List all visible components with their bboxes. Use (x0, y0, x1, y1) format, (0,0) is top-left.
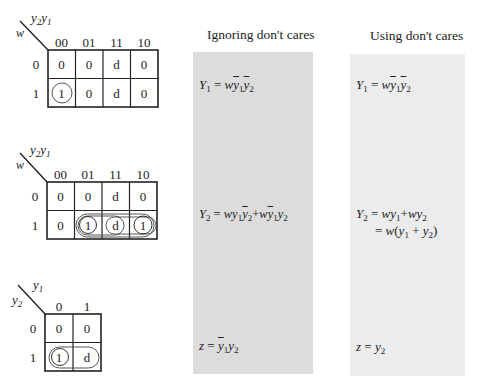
kmap-cell: 0 (130, 58, 158, 71)
kmap-cell: 0 (73, 322, 101, 335)
col-var-label: y2y1 (31, 11, 52, 24)
col-label: 00 (47, 168, 74, 181)
kmap-cell: 1 (48, 87, 75, 100)
kmap-z: y1 y2 0 1 0 1 0 0 1 d (0, 280, 120, 391)
kmap-cell: 0 (45, 322, 73, 335)
col-label: 01 (75, 36, 103, 49)
equation-z-using: z = y2 (356, 340, 385, 354)
kmap-cell: 0 (74, 190, 102, 203)
kmap-cell: 0 (47, 190, 74, 203)
col-label: 11 (102, 168, 129, 181)
col-label: 1 (73, 300, 101, 313)
panel-ignoring: Y1 = wy1y2 Y2 = wy1y2+wy1y2 z = y1y2 (193, 52, 313, 374)
equation-y2-using-line1: Y2 = wy1+wy2 (356, 207, 427, 221)
row-label: 1 (30, 87, 42, 100)
kmap-y2: y2y1 w 00 01 11 10 0 1 0 0 d 0 0 1 d 1 (0, 140, 160, 270)
row-label: 1 (27, 351, 39, 364)
kmap-cell: 0 (129, 190, 157, 203)
kmap-cell: d (102, 190, 129, 203)
equation-y2-ignoring: Y2 = wy1y2+wy1y2 (199, 207, 288, 221)
row-var-label: w (16, 159, 24, 172)
kmap-cell: d (103, 87, 130, 100)
kmap-cell: 1 (45, 351, 73, 364)
row-var-label: y2 (12, 293, 22, 306)
col-label: 00 (48, 36, 75, 49)
row-var-label: w (16, 27, 24, 40)
kmap-cell: 0 (75, 58, 103, 71)
kmap-cell: 1 (129, 219, 157, 232)
equation-y1-ignoring: Y1 = wy1y2 (199, 78, 254, 92)
kmap-y1: y2y1 w 00 01 11 10 0 1 0 0 d 0 1 0 d 0 (0, 0, 160, 130)
col-label: 01 (74, 168, 102, 181)
kmap-cell: d (103, 58, 130, 71)
panel-using: Y1 = wy1y2 Y2 = wy1+wy2 = w(y1 + y2) z =… (350, 54, 465, 376)
col-label: 10 (129, 168, 157, 181)
row-label: 0 (27, 322, 39, 335)
kmap-cell: 0 (75, 87, 103, 100)
col-label: 0 (45, 300, 73, 313)
col-var-label: y2y1 (30, 143, 51, 156)
col-label: 10 (130, 36, 158, 49)
col-var-label: y1 (33, 278, 43, 291)
equation-y1-using: Y1 = wy1y2 (356, 78, 411, 92)
kmap-cell: 1 (74, 219, 102, 232)
kmap-cell: 0 (48, 58, 75, 71)
kmap-cell: d (102, 219, 129, 232)
kmap-cell: 0 (130, 87, 158, 100)
header-ignoring: Ignoring don't cares (207, 27, 314, 43)
row-label: 0 (29, 190, 41, 203)
row-label: 1 (29, 219, 41, 232)
equation-y2-using-line2: = w(y1 + y2) (375, 224, 437, 238)
header-using: Using don't cares (370, 28, 463, 44)
kmap-cell: d (73, 351, 101, 364)
col-label: 11 (103, 36, 130, 49)
row-label: 0 (30, 58, 42, 71)
equation-z-ignoring: z = y1y2 (199, 339, 238, 353)
kmap-cell: 0 (47, 219, 74, 232)
